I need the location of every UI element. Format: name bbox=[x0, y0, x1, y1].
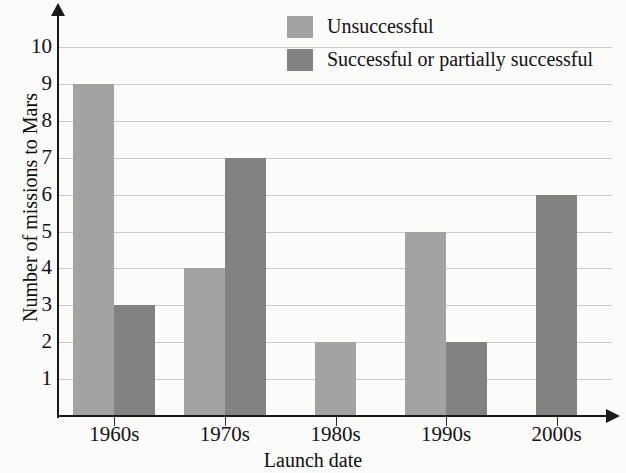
bar-1980s-unsuccessful bbox=[315, 342, 356, 416]
x-axis-title: Launch date bbox=[0, 449, 626, 472]
bar-1960s-unsuccessful bbox=[73, 84, 114, 416]
y-axis-line bbox=[57, 12, 59, 418]
x-tick-label-2000s: 2000s bbox=[507, 424, 607, 445]
legend-entry-successful: Successful or partially successful bbox=[287, 43, 593, 76]
bar-1970s-unsuccessful bbox=[184, 268, 225, 416]
bar-2000s-successful bbox=[536, 195, 577, 416]
x-tick-mark bbox=[336, 417, 337, 426]
x-tick-label-1990s: 1990s bbox=[396, 424, 496, 445]
x-tick-label-1970s: 1970s bbox=[175, 424, 275, 445]
legend-entry-unsuccessful: Unsuccessful bbox=[287, 10, 593, 43]
legend-swatch-unsuccessful bbox=[287, 16, 313, 38]
legend: Unsuccessful Successful or partially suc… bbox=[287, 10, 593, 76]
bar-1990s-unsuccessful bbox=[405, 232, 446, 417]
x-tick-mark bbox=[225, 417, 226, 426]
x-axis-arrow-icon bbox=[606, 409, 620, 423]
legend-label-unsuccessful: Unsuccessful bbox=[327, 15, 434, 38]
y-axis-title: Number of missions to Mars bbox=[19, 18, 42, 398]
legend-swatch-successful bbox=[287, 49, 313, 71]
bar-1990s-successful bbox=[446, 342, 487, 416]
x-tick-label-1960s: 1960s bbox=[64, 424, 164, 445]
x-axis-line bbox=[58, 415, 610, 417]
legend-label-successful: Successful or partially successful bbox=[327, 48, 593, 71]
bar-chart: 12345678910 Number of missions to Mars 1… bbox=[0, 0, 626, 473]
x-tick-mark bbox=[446, 417, 447, 426]
x-tick-mark bbox=[557, 417, 558, 426]
x-tick-mark bbox=[114, 417, 115, 426]
bar-1970s-successful bbox=[225, 158, 266, 416]
y-axis-arrow-icon bbox=[51, 3, 65, 16]
bar-1960s-successful bbox=[114, 305, 155, 416]
x-tick-label-1980s: 1980s bbox=[286, 424, 386, 445]
